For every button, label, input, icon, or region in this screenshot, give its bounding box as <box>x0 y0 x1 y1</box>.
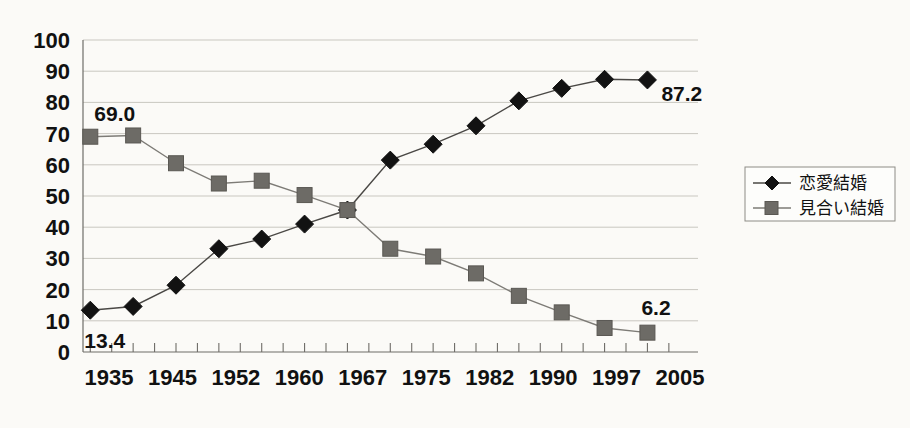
data-label-13.4: 13.4 <box>84 329 125 352</box>
x-axis-tick-label: 1990 <box>529 365 578 390</box>
x-axis-tick-label: 1952 <box>211 365 260 390</box>
data-point-marker-square <box>426 249 441 264</box>
x-axis-tick-label: 1997 <box>592 365 641 390</box>
data-point-marker-square <box>254 173 269 188</box>
y-axis-tick-label: 20 <box>46 278 70 303</box>
x-axis-tick-label: 1945 <box>148 365 197 390</box>
data-point-marker-square <box>469 266 484 281</box>
data-label-6.2: 6.2 <box>641 296 670 319</box>
y-axis-tick-label: 10 <box>46 309 70 334</box>
data-point-marker-square <box>340 203 355 218</box>
x-axis-tick-label: 1982 <box>465 365 514 390</box>
x-axis-tick-label: 1975 <box>402 365 451 390</box>
x-axis-tick-label: 2005 <box>656 365 705 390</box>
y-axis-tick-label: 0 <box>58 340 70 365</box>
line-chart: 1009080706050403020100 19351945195219601… <box>0 0 910 428</box>
data-label-69.0: 69.0 <box>94 102 135 125</box>
data-point-marker-square <box>169 156 184 171</box>
y-axis-tick-label: 90 <box>46 59 70 84</box>
legend-label-2: 見合い結婚 <box>799 198 884 218</box>
y-axis-tick-label: 60 <box>46 153 70 178</box>
data-label-87.2: 87.2 <box>661 82 702 105</box>
y-axis-tick-label: 30 <box>46 246 70 271</box>
y-axis-tick-label: 40 <box>46 215 70 240</box>
y-axis-tick-label: 100 <box>33 28 70 53</box>
x-axis-tick-label: 1935 <box>85 365 134 390</box>
x-axis-tick-label: 1967 <box>338 365 387 390</box>
data-point-marker-square <box>597 320 612 335</box>
chart-legend[interactable]: 恋愛結婚見合い結婚 <box>745 167 895 221</box>
data-point-marker-square <box>511 288 526 303</box>
data-point-marker-square <box>383 241 398 256</box>
data-point-marker-square <box>297 188 312 203</box>
x-axis-tick-label: 1960 <box>275 365 324 390</box>
y-axis-tick-label: 70 <box>46 122 70 147</box>
legend-label-1: 恋愛結婚 <box>799 173 867 193</box>
data-point-marker-square <box>554 305 569 320</box>
data-point-marker-square <box>640 325 655 340</box>
y-axis-tick-label: 50 <box>46 184 70 209</box>
y-axis-tick-label: 80 <box>46 90 70 115</box>
data-point-marker-square <box>126 128 141 143</box>
legend-marker-square <box>765 202 778 215</box>
data-point-marker-square <box>83 129 98 144</box>
chart-container: 1009080706050403020100 19351945195219601… <box>0 0 910 428</box>
data-point-marker-square <box>211 176 226 191</box>
